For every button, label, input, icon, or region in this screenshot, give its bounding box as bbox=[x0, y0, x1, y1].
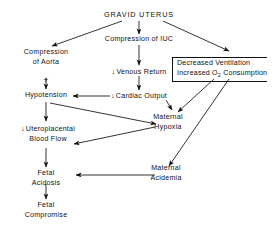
node-uteroplacental-blood-flow: ↓Uteroplacental Blood Flow bbox=[21, 124, 75, 144]
node-hypotension: Hypotension bbox=[25, 91, 67, 101]
node-cardiac-output-label: Cardiac Output bbox=[116, 92, 167, 100]
node-compression-of-aorta-line2: of Aorta bbox=[24, 58, 69, 68]
node-fetal-compromise-line2: Compromise bbox=[25, 211, 68, 221]
node-maternal-hypoxia-line1: Maternal bbox=[153, 113, 183, 123]
node-maternal-acidemia-line2: Acidemia bbox=[150, 174, 181, 184]
node-compression-of-aorta-line1: Compression bbox=[24, 48, 69, 58]
node-maternal-hypoxia-line2: Hypoxia bbox=[153, 123, 183, 133]
node-increased-o2-prefix: Increased O bbox=[177, 69, 218, 77]
node-uteroplacental-label: Uteroplacental bbox=[26, 125, 75, 133]
node-hypotension-label: Hypotension bbox=[25, 91, 67, 101]
node-fetal-acidosis: Fetal Acidosis bbox=[32, 169, 60, 188]
node-fetal-acidosis-line2: Acidosis bbox=[32, 179, 60, 189]
node-plus-operator-label: + bbox=[43, 75, 48, 85]
edge-ventilation-to-maternal-hypoxia bbox=[178, 79, 214, 112]
node-cardiac-output: ↓Cardiac Output bbox=[111, 91, 167, 102]
node-fetal-compromise: Fetal Compromise bbox=[25, 201, 68, 220]
node-plus-operator: + bbox=[43, 76, 48, 85]
node-increased-o2-suffix: Consumption bbox=[221, 69, 267, 77]
node-uteroplacental-line1: ↓Uteroplacental bbox=[21, 124, 75, 135]
node-compression-of-iuc-label: Compression of IUC bbox=[105, 35, 173, 45]
flowchart-diagram: GRAVID UTERUS Compression of Aorta + Com… bbox=[0, 0, 279, 228]
node-decreased-ventilation-label: Decreased Ventilation bbox=[177, 58, 267, 68]
node-fetal-acidosis-line1: Fetal bbox=[32, 169, 60, 179]
node-venous-return-label: Venous Return bbox=[116, 68, 166, 76]
node-maternal-hypoxia: Maternal Hypoxia bbox=[153, 113, 183, 132]
node-compression-of-iuc: Compression of IUC bbox=[105, 35, 173, 45]
node-gravid-uterus: GRAVID UTERUS bbox=[104, 10, 174, 20]
node-increased-o2-consumption-label: Increased O2 Consumption bbox=[177, 68, 267, 81]
edge-maternal-hypoxia-to-uteroplacental bbox=[74, 127, 155, 144]
node-gravid-uterus-label: GRAVID UTERUS bbox=[104, 10, 174, 20]
node-maternal-acidemia-line1: Maternal bbox=[150, 164, 181, 174]
node-uteroplacental-line2: Blood Flow bbox=[21, 135, 75, 145]
node-venous-return: ↓Venous Return bbox=[111, 67, 166, 78]
node-venous-return-line: ↓Venous Return bbox=[111, 67, 166, 78]
node-maternal-acidemia: Maternal Acidemia bbox=[150, 164, 181, 183]
node-cardiac-output-line: ↓Cardiac Output bbox=[111, 91, 167, 102]
node-fetal-compromise-line1: Fetal bbox=[25, 201, 68, 211]
node-compression-of-aorta: Compression of Aorta bbox=[24, 48, 69, 67]
node-ventilation-oxygen-group: Decreased Ventilation Increased O2 Consu… bbox=[172, 57, 267, 82]
edge-hypotension-to-maternal-hypoxia bbox=[50, 103, 156, 124]
